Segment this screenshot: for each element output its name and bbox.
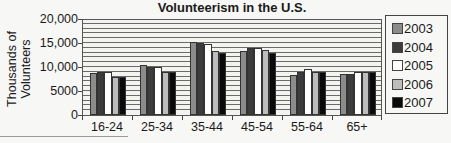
bar-55-64-2007	[319, 72, 326, 115]
gridline	[83, 28, 381, 29]
x-tick-mark	[332, 116, 333, 120]
legend: 20032004200520062007	[385, 15, 448, 114]
chart-title: Volunteerism in the U.S.	[82, 0, 382, 16]
bar-35-44-2007	[219, 53, 226, 115]
legend-label: 2007	[404, 95, 433, 110]
bar-55-64-2004	[297, 72, 304, 115]
bar-45-54-2003	[240, 51, 247, 115]
bar-16-24-2003	[90, 73, 97, 115]
decorative-line	[0, 136, 128, 137]
gridline	[83, 85, 381, 86]
bar-45-54-2006	[262, 50, 269, 115]
gridline	[83, 61, 381, 62]
x-tick-label: 45-54	[232, 120, 282, 134]
legend-item-2005: 2005	[392, 59, 433, 73]
gridline	[83, 104, 381, 105]
x-tick-mark	[282, 116, 283, 120]
y-tick-label: 15,000	[40, 37, 78, 49]
gridline	[83, 76, 381, 77]
bar-55-64-2003	[290, 75, 297, 115]
bar-45-54-2007	[269, 53, 276, 115]
gridline	[83, 100, 381, 101]
bar-25-34-2005	[154, 67, 161, 115]
x-tick-mark	[132, 116, 133, 120]
bar-65+-2003	[340, 74, 347, 115]
y-tick-label: 5000	[50, 85, 78, 97]
bar-35-44-2005	[204, 44, 211, 115]
x-tick-mark	[381, 116, 382, 120]
legend-item-2006: 2006	[392, 78, 433, 92]
legend-item-2007: 2007	[392, 96, 433, 110]
legend-swatch	[392, 23, 403, 34]
gridline	[83, 71, 381, 72]
x-tick-label: 25-34	[132, 120, 182, 134]
bar-25-34-2004	[147, 67, 154, 115]
x-tick-label: 35-44	[182, 120, 232, 134]
legend-item-2004: 2004	[392, 41, 433, 55]
bar-25-34-2007	[169, 72, 176, 115]
bar-45-54-2004	[247, 48, 254, 115]
x-tick-mark	[82, 116, 83, 120]
bar-35-44-2004	[197, 43, 204, 115]
legend-label: 2003	[404, 21, 433, 36]
gridline	[83, 80, 381, 81]
y-tick-label: 10,000	[40, 61, 78, 73]
plot-area	[82, 19, 382, 116]
gridline	[83, 52, 381, 53]
bar-55-64-2005	[304, 69, 311, 115]
bar-16-24-2007	[119, 77, 126, 115]
gridline	[83, 95, 381, 96]
legend-label: 2005	[404, 58, 433, 73]
legend-item-2003: 2003	[392, 22, 433, 36]
legend-label: 2004	[404, 40, 433, 55]
gridline	[83, 37, 381, 38]
bar-65+-2004	[347, 74, 354, 115]
bar-65+-2006	[362, 72, 369, 115]
bar-16-24-2005	[104, 72, 111, 115]
bar-25-34-2003	[140, 65, 147, 115]
gridline	[83, 23, 381, 24]
gridline	[83, 47, 381, 48]
y-tick-label: 20,000	[40, 13, 78, 25]
gridline	[83, 66, 381, 67]
x-tick-label: 65+	[332, 120, 382, 134]
x-tick-label: 55-64	[282, 120, 332, 134]
bar-16-24-2004	[97, 72, 104, 115]
bar-25-34-2006	[162, 72, 169, 115]
gridline	[83, 32, 381, 33]
bar-16-24-2006	[112, 77, 119, 115]
bar-65+-2007	[369, 72, 376, 115]
x-tick-mark	[232, 116, 233, 120]
x-tick-label: 16-24	[82, 120, 132, 134]
gridline	[83, 109, 381, 110]
legend-swatch	[392, 97, 403, 108]
y-tick-label: 0	[71, 109, 78, 121]
bar-55-64-2006	[312, 72, 319, 115]
legend-label: 2006	[404, 77, 433, 92]
legend-swatch	[392, 79, 403, 90]
gridline	[83, 42, 381, 43]
bar-65+-2005	[354, 72, 361, 115]
gridline	[83, 90, 381, 91]
legend-swatch	[392, 60, 403, 71]
legend-swatch	[392, 42, 403, 53]
x-tick-mark	[182, 116, 183, 120]
bar-45-54-2005	[254, 48, 261, 115]
gridline	[83, 56, 381, 57]
bar-35-44-2006	[212, 51, 219, 115]
bar-35-44-2003	[190, 42, 197, 115]
y-axis-label: Thousands of Volunteers	[5, 19, 35, 119]
